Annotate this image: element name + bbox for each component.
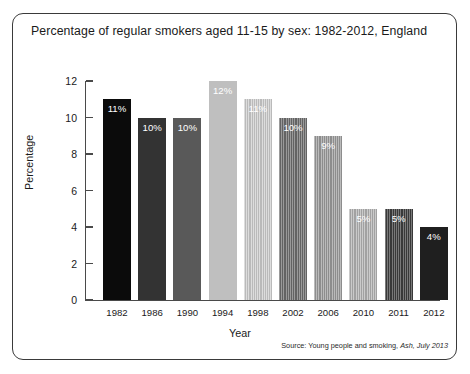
y-tick-label-2: 2 xyxy=(43,258,77,270)
source-citation: Ash, July 2013 xyxy=(400,341,448,350)
y-axis-title: Percentage xyxy=(23,135,35,190)
bar-2012: 4% xyxy=(420,227,448,300)
y-tick-label-0: 0 xyxy=(43,294,77,306)
y-tick-label-12: 12 xyxy=(43,75,77,87)
bar-value-label-1990: 10% xyxy=(173,122,201,133)
bar-2011: 5% xyxy=(385,209,413,300)
y-tick-6 xyxy=(86,190,93,191)
bar-value-label-2010: 5% xyxy=(349,213,377,224)
x-axis-title: Year xyxy=(85,327,395,339)
bar-1994: 12% xyxy=(209,81,237,300)
chart-figure: Percentage of regular smokers aged 11-15… xyxy=(0,0,470,374)
y-tick-label-8: 8 xyxy=(43,148,77,160)
bar-1982: 11% xyxy=(103,99,131,300)
bar-value-label-2011: 5% xyxy=(385,213,413,224)
y-tick-label-10: 10 xyxy=(43,112,77,124)
bar-value-label-1986: 10% xyxy=(138,122,166,133)
y-tick-label-4: 4 xyxy=(43,221,77,233)
bar-1986: 10% xyxy=(138,118,166,301)
source-prefix: Source: Young people and smoking, xyxy=(281,341,398,350)
plot-area: 024681012 11%10%10%12%11%10%9%5%5%4% 198… xyxy=(85,81,440,300)
x-tick-label-2012: 2012 xyxy=(404,307,464,318)
bar-value-label-2012: 4% xyxy=(420,231,448,242)
bar-2010: 5% xyxy=(349,209,377,300)
bar-value-label-1998: 11% xyxy=(244,103,272,114)
y-tick-0 xyxy=(86,299,93,300)
y-tick-10 xyxy=(86,117,93,118)
bar-value-label-1994: 12% xyxy=(209,85,237,96)
bar-1990: 10% xyxy=(173,118,201,301)
y-tick-8 xyxy=(86,153,93,154)
bar-2002: 10% xyxy=(279,118,307,301)
chart-title: Percentage of regular smokers aged 11-15… xyxy=(31,24,427,38)
x-axis-line xyxy=(85,300,440,301)
y-tick-4 xyxy=(86,226,93,227)
source-note: Source: Young people and smoking, Ash, J… xyxy=(281,341,448,350)
bar-value-label-2006: 9% xyxy=(314,140,342,151)
y-tick-12 xyxy=(86,80,93,81)
bar-value-label-1982: 11% xyxy=(103,103,131,114)
y-tick-2 xyxy=(86,263,93,264)
y-tick-label-6: 6 xyxy=(43,185,77,197)
bar-2006: 9% xyxy=(314,136,342,300)
bar-1998: 11% xyxy=(244,99,272,300)
bar-value-label-2002: 10% xyxy=(279,122,307,133)
